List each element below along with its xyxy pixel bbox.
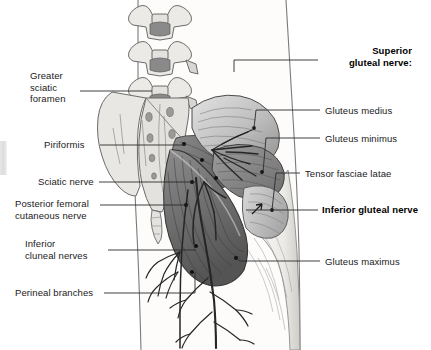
- label-sciatic-nerve: Sciatic nerve: [38, 176, 104, 188]
- label-gluteus-minimus: Gluteus minimus: [325, 133, 425, 145]
- lumbar-vertebrae: [129, 6, 199, 113]
- label-inferior-cluneal-nerves: Inferior cluneal nerves: [25, 238, 109, 261]
- label-superior-gluteal-nerve: Superior gluteal nerve:: [320, 45, 412, 68]
- perineal-branches-marker: [190, 270, 194, 274]
- label-gluteus-medius: Gluteus medius: [325, 105, 425, 117]
- superior-gluteal-marker: [200, 158, 204, 162]
- label-greater-sciatic-foramen: Greater sciatic foramen: [30, 70, 100, 105]
- label-inferior-gluteal-nerve: Inferior gluteal nerve: [322, 204, 431, 216]
- anatomy-figure: Greater sciatic foramen Piriformis Sciat…: [0, 0, 431, 350]
- inferior-gluteal-marker: [214, 176, 218, 180]
- inferior-cluneal-marker: [194, 244, 198, 248]
- label-gluteus-maximus: Gluteus maximus: [325, 256, 425, 268]
- label-posterior-femoral-cutaneous-nerve: Posterior femoral cutaneous nerve: [15, 198, 107, 221]
- label-tensor-fasciae-latae: Tensor fasciae latae: [305, 168, 425, 180]
- label-perineal-branches: Perineal branches: [15, 287, 107, 299]
- label-piriformis: Piriformis: [44, 139, 104, 151]
